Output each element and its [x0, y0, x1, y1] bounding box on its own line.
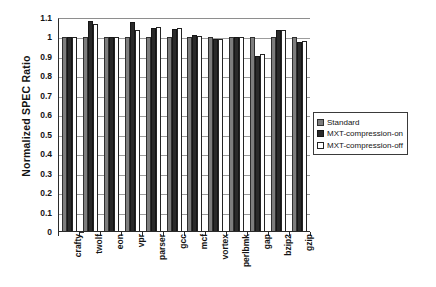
legend-label: Standard [327, 118, 359, 127]
bar [72, 37, 77, 232]
x-tick-label: gap [262, 234, 272, 284]
bar [93, 24, 98, 232]
legend-swatch-icon [317, 119, 324, 126]
legend-item: MXT-compression-on [317, 128, 403, 139]
x-tick-label: twolf [94, 234, 104, 284]
bar-group [122, 19, 143, 232]
bar-group [143, 19, 164, 232]
bar [197, 36, 202, 232]
x-tick-label: perlbmk [241, 234, 251, 284]
x-tick-label: gcc [178, 234, 188, 284]
bar-group [268, 19, 289, 232]
bar-group [205, 19, 226, 232]
y-tick-label: 1.1 [40, 13, 52, 23]
bar [114, 37, 119, 232]
y-tick-label: 0 [47, 227, 52, 237]
bar [218, 39, 223, 232]
bar-group [59, 19, 80, 232]
bar [156, 27, 161, 232]
legend-item: MXT-compression-off [317, 140, 403, 151]
bar-group [185, 19, 206, 232]
x-tick-label: mcf [199, 234, 209, 284]
y-tick-label: 1 [47, 32, 52, 42]
y-tick-label: 0.3 [40, 169, 52, 179]
bar-group [226, 19, 247, 232]
y-tick-label: 0.7 [40, 91, 52, 101]
bar [260, 54, 265, 232]
x-tick-label: bzip2 [283, 234, 293, 284]
legend-swatch-icon [317, 142, 324, 149]
y-tick-label: 0.5 [40, 130, 52, 140]
y-tick-label: 0.8 [40, 71, 52, 81]
y-tick-label: 0.6 [40, 110, 52, 120]
legend-label: MXT-compression-off [327, 141, 403, 150]
y-tick-label: 0.9 [40, 52, 52, 62]
bar-groups [59, 19, 310, 232]
x-tick-label: gzip [304, 234, 314, 284]
legend-swatch-icon [317, 130, 324, 137]
bar-group [289, 19, 310, 232]
bar [239, 37, 244, 232]
bar-group [101, 19, 122, 232]
bar [302, 41, 307, 232]
bar-group [164, 19, 185, 232]
x-tick-label: vortex [220, 234, 230, 284]
y-tick-label: 0.1 [40, 208, 52, 218]
y-tick-label: 0.4 [40, 149, 52, 159]
bar-chart-figure: Normalized SPEC Ratio 1.110.90.80.70.60.… [0, 0, 436, 287]
plot-area [58, 18, 310, 232]
x-tick-label: crafty [73, 234, 83, 284]
x-axis-tick-labels: craftytwolfeonvprparsergccmcfvortexperlb… [58, 236, 310, 286]
x-tick-label: parser [157, 234, 167, 284]
bar [281, 30, 286, 232]
bar [177, 28, 182, 232]
bar-group [80, 19, 101, 232]
bar-group [247, 19, 268, 232]
legend-label: MXT-compression-on [327, 129, 403, 138]
y-axis-tick-labels: 1.110.90.80.70.60.50.40.30.20.10 [26, 12, 52, 238]
x-tick-label: eon [115, 234, 125, 284]
y-tick-label: 0.2 [40, 188, 52, 198]
bar [135, 30, 140, 232]
legend-item: Standard [317, 117, 403, 128]
chart-legend: StandardMXT-compression-onMXT-compressio… [313, 112, 408, 155]
x-tick-label: vpr [136, 234, 146, 284]
